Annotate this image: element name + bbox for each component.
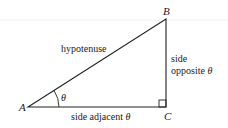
angle-arc	[54, 90, 59, 107]
vertex-c-label: C	[164, 110, 172, 122]
triangle-outline	[28, 19, 166, 107]
opposite-label-line2: opposite θ	[171, 65, 212, 76]
hypotenuse-label: hypotenuse	[61, 43, 107, 54]
vertex-b-label: B	[163, 5, 170, 17]
right-angle-marker	[159, 100, 166, 107]
angle-theta-label: θ	[61, 92, 66, 103]
right-triangle-diagram: A B C θ hypotenuse side opposite θ side …	[0, 0, 228, 128]
adjacent-label: side adjacent θ	[71, 111, 130, 122]
opposite-label-line1: side	[171, 53, 188, 64]
vertex-a-label: A	[18, 101, 26, 113]
